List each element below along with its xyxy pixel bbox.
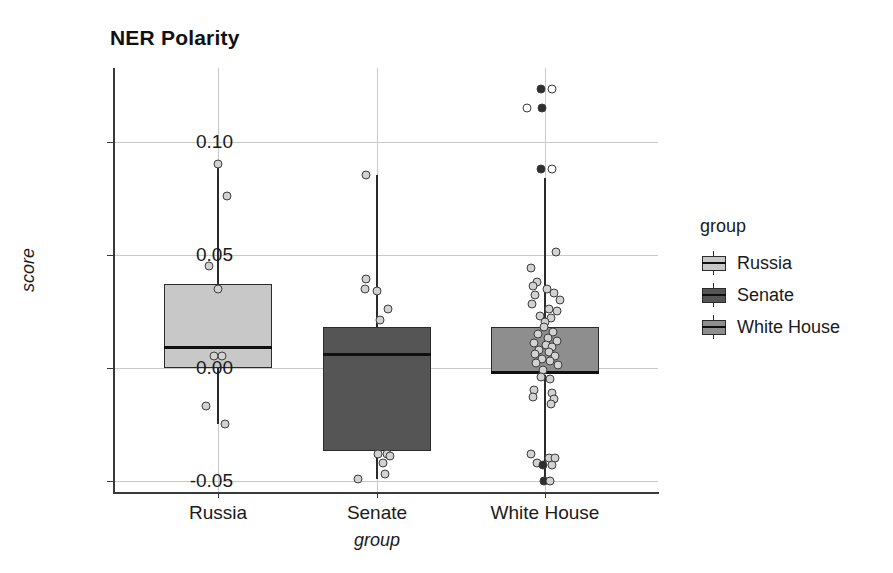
x-tick-label: Russia bbox=[189, 502, 247, 524]
data-point bbox=[534, 329, 543, 338]
data-point bbox=[214, 284, 223, 293]
chart-title: NER Polarity bbox=[110, 26, 240, 50]
data-point bbox=[531, 291, 540, 300]
data-point bbox=[381, 470, 390, 479]
data-point bbox=[529, 282, 538, 291]
median-line bbox=[164, 346, 272, 349]
x-axis-line bbox=[113, 492, 659, 494]
data-point bbox=[554, 361, 563, 370]
data-point bbox=[537, 164, 546, 173]
x-tick-label: White House bbox=[491, 502, 600, 524]
y-tick-label: 0.05 bbox=[196, 244, 233, 266]
legend-swatch-icon bbox=[700, 251, 728, 275]
data-point bbox=[221, 420, 230, 429]
data-point bbox=[386, 451, 395, 460]
data-point bbox=[374, 449, 383, 458]
y-tick-label: 0.10 bbox=[196, 131, 233, 153]
legend-swatch-icon bbox=[700, 315, 728, 339]
gridline-horizontal bbox=[113, 255, 658, 256]
data-point bbox=[362, 275, 371, 284]
box-senate[interactable] bbox=[323, 327, 431, 451]
data-point bbox=[548, 460, 557, 469]
data-point bbox=[373, 286, 382, 295]
data-point bbox=[539, 460, 548, 469]
data-point bbox=[527, 264, 536, 273]
data-point bbox=[537, 85, 546, 94]
data-point bbox=[361, 284, 370, 293]
legend-swatch-icon bbox=[700, 283, 728, 307]
legend-item-senate[interactable]: Senate bbox=[700, 279, 880, 311]
legend-item-russia[interactable]: Russia bbox=[700, 247, 880, 279]
data-point bbox=[548, 164, 557, 173]
legend-label: Senate bbox=[737, 285, 794, 306]
data-point bbox=[214, 160, 223, 169]
data-point bbox=[546, 375, 555, 384]
y-axis-title: score bbox=[18, 248, 39, 292]
data-point bbox=[379, 458, 388, 467]
data-point bbox=[537, 372, 546, 381]
whisker-upper bbox=[376, 175, 378, 327]
chart-root: NER Polarity 0.100.050.00-0.05 RussiaSen… bbox=[0, 0, 893, 573]
data-point bbox=[376, 316, 385, 325]
legend-title: group bbox=[700, 216, 880, 237]
legend-item-white-house[interactable]: White House bbox=[700, 311, 880, 343]
data-point bbox=[529, 393, 538, 402]
legend-label: Russia bbox=[737, 253, 792, 274]
data-point bbox=[556, 295, 565, 304]
x-axis-title: group bbox=[354, 530, 400, 551]
median-line bbox=[323, 353, 431, 356]
data-point bbox=[547, 399, 556, 408]
legend-label: White House bbox=[737, 317, 840, 338]
data-point bbox=[546, 476, 555, 485]
data-point bbox=[528, 300, 537, 309]
plot-panel bbox=[113, 68, 658, 492]
data-point bbox=[384, 304, 393, 313]
data-point bbox=[548, 85, 557, 94]
data-point bbox=[527, 449, 536, 458]
whisker-upper bbox=[217, 164, 219, 284]
y-axis-line bbox=[113, 68, 115, 494]
data-point bbox=[354, 474, 363, 483]
data-point bbox=[538, 103, 547, 112]
legend: group RussiaSenateWhite House bbox=[700, 216, 880, 343]
gridline-horizontal bbox=[113, 142, 658, 143]
x-tick-label: Senate bbox=[347, 502, 407, 524]
legend-entries: RussiaSenateWhite House bbox=[700, 247, 880, 343]
data-point bbox=[202, 402, 211, 411]
data-point bbox=[552, 248, 561, 257]
data-point bbox=[362, 171, 371, 180]
data-point bbox=[223, 191, 232, 200]
data-point bbox=[523, 103, 532, 112]
y-tick-label: 0.00 bbox=[196, 357, 233, 379]
y-tick-label: -0.05 bbox=[190, 470, 233, 492]
